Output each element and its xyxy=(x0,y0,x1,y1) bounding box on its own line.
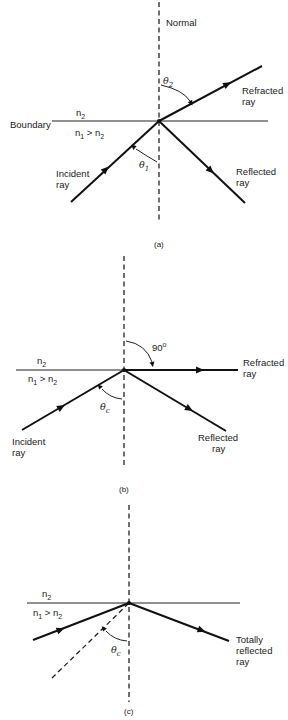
n1-gt-n2-label: n1 > n2 xyxy=(28,373,57,386)
caption-c: (c) xyxy=(124,707,134,716)
incidence-point xyxy=(122,368,126,372)
caption-a: (a) xyxy=(154,240,164,249)
n2-label: n2 xyxy=(37,355,46,368)
n1-gt-n2-label: n1 > n2 xyxy=(75,127,104,140)
reflected-ray xyxy=(124,370,226,431)
incidence-point xyxy=(157,119,161,123)
refraction-diagram: Normal Boundary n2 n1 > n2 θ2 θ1 Refract… xyxy=(0,0,288,720)
incident-ray-label: Incidentray xyxy=(56,168,90,190)
refracted-ray-label: Refractedray xyxy=(243,357,284,379)
thetac-label: θc xyxy=(100,401,110,415)
refracted-arrow-icon xyxy=(222,79,232,89)
angle90-arc-arrow-icon xyxy=(150,362,156,368)
panel-a: Normal Boundary n2 n1 > n2 θ2 θ1 Refract… xyxy=(10,2,283,249)
totally-reflected-ray xyxy=(129,603,229,641)
normal-label: Normal xyxy=(166,17,197,28)
totally-reflected-ray-label: Totallyreflectedray xyxy=(236,634,272,667)
refracted-arrow-icon xyxy=(196,367,204,374)
n2-label: n2 xyxy=(42,588,51,601)
n2-label: n2 xyxy=(76,107,85,120)
incident-ray-label: Incidentray xyxy=(12,436,46,458)
thetac-arc xyxy=(102,389,122,399)
n1-gt-n2-label: n1 > n2 xyxy=(33,607,62,620)
theta1-label: θ1 xyxy=(139,159,149,173)
caption-b: (b) xyxy=(119,485,129,494)
panel-c: n2 n1 > n2 θc Totallyreflectedray (c) xyxy=(27,505,272,716)
extended-critical-ray xyxy=(52,603,129,678)
reflected-ray-label: Reflectedray xyxy=(236,166,276,188)
thetac-label: θc xyxy=(111,644,121,658)
thetac-arc xyxy=(106,631,127,641)
theta2-arc xyxy=(161,85,190,101)
angle90-label: 90o xyxy=(152,341,167,353)
angle90-arc xyxy=(126,341,152,362)
refracted-ray-label: Refractedray xyxy=(242,85,283,107)
reflected-arrow-icon xyxy=(184,404,194,414)
panel-b: n2 n1 > n2 90o θc Refractedray Reflected… xyxy=(12,256,284,494)
reflected-arrow-icon xyxy=(197,626,207,635)
theta2-label: θ2 xyxy=(163,75,174,89)
incidence-point xyxy=(127,601,131,605)
reflected-ray xyxy=(159,121,245,203)
incident-arrow-icon xyxy=(56,625,66,634)
incident-arrow-icon xyxy=(56,402,66,412)
boundary-label: Boundary xyxy=(10,119,51,130)
reflected-ray-label: Reflectedray xyxy=(198,432,238,454)
